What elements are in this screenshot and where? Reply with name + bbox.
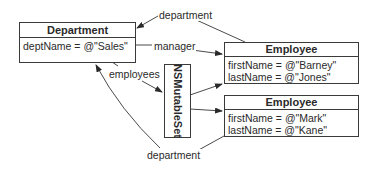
first-name-attribute: firstName = @"Barney" — [228, 59, 355, 71]
employee-title: Employee — [225, 43, 358, 57]
last-name-attribute: lastName = @"Kane" — [228, 124, 355, 136]
last-name-attribute: lastName = @"Jones" — [228, 71, 355, 83]
manager-label: manager — [153, 40, 196, 52]
nsmutableset-object: NSMutableSet — [164, 64, 191, 138]
department-bottom-label: department — [146, 149, 201, 161]
department-entity: Department deptName = @"Sales" — [19, 22, 136, 63]
employees-label: employees — [108, 68, 161, 80]
department-title: Department — [20, 23, 135, 38]
first-name-attribute: firstName = @"Mark" — [228, 112, 355, 124]
department-top-label: department — [158, 9, 213, 21]
employee-title: Employee — [225, 96, 358, 110]
nsmutableset-title: NSMutableSet — [172, 64, 184, 138]
employee-entity-mark: Employee firstName = @"Mark" lastName = … — [224, 95, 359, 137]
dept-name-attribute: deptName = @"Sales" — [23, 40, 132, 52]
employee-entity-barney: Employee firstName = @"Barney" lastName … — [224, 42, 359, 84]
